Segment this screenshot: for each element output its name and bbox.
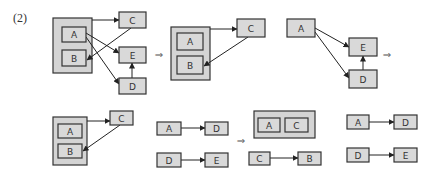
node-label: E — [130, 51, 136, 61]
node-c: C — [237, 19, 265, 37]
node-label: D — [129, 82, 136, 92]
node-label: A — [266, 121, 273, 131]
diagram-d5: ADDE — [157, 122, 228, 167]
diagram-d3: AED — [287, 19, 377, 88]
node-b: B — [62, 50, 86, 66]
node-b: B — [58, 144, 82, 158]
node-label: B — [67, 147, 73, 157]
node-label: D — [360, 75, 367, 85]
node-a: A — [347, 115, 369, 129]
diagram-d4: ABC — [53, 111, 133, 165]
node-label: A — [355, 118, 362, 128]
node-a: A — [258, 118, 280, 132]
node-a: A — [287, 19, 315, 37]
node-a: A — [177, 33, 203, 50]
node-b: B — [298, 152, 321, 165]
edge-c-to-b — [83, 125, 120, 151]
node-label: C — [129, 16, 135, 26]
node-label: A — [71, 30, 78, 40]
node-label: C — [118, 114, 124, 124]
diagram-d6: ACCB — [249, 111, 321, 165]
node-label: A — [67, 127, 74, 137]
node-label: A — [298, 24, 305, 34]
node-e: E — [119, 47, 146, 63]
node-d: D — [347, 148, 369, 162]
node-a: A — [62, 27, 86, 42]
diagram-canvas: (2) ABCEDABCAEDABCADDEACCBADDE ⇒⇒⇒ — [0, 0, 430, 177]
node-label: D — [355, 151, 362, 161]
implies-arrow-icon: ⇒ — [383, 49, 391, 60]
node-e: E — [349, 38, 377, 56]
node-c: C — [110, 111, 133, 125]
node-c: C — [119, 12, 146, 28]
node-d: D — [394, 115, 417, 129]
node-d: D — [205, 122, 228, 135]
node-label: B — [71, 54, 77, 64]
node-d: D — [349, 70, 377, 88]
node-label: C — [293, 121, 299, 131]
diagram-d7: ADDE — [347, 115, 417, 162]
node-label: E — [214, 156, 220, 166]
node-label: B — [306, 154, 312, 164]
node-c: C — [249, 152, 270, 165]
edge-a-to-e — [315, 28, 349, 47]
node-label: C — [248, 24, 254, 34]
node-label: D — [166, 156, 173, 166]
node-label: E — [360, 43, 366, 53]
implies-arrow-icon: ⇒ — [237, 135, 245, 146]
node-a: A — [157, 122, 181, 135]
edge-a-to-d — [315, 32, 349, 78]
node-label: B — [187, 61, 193, 71]
node-e: E — [394, 148, 417, 162]
node-a: A — [58, 124, 82, 138]
node-label: D — [402, 118, 409, 128]
diagram-groups: ABCEDABCAEDABCADDEACCBADDE — [53, 12, 417, 167]
node-e: E — [205, 153, 228, 167]
edge-c-to-b — [204, 37, 248, 66]
diagram-d1: ABCED — [53, 12, 146, 94]
node-b: B — [177, 56, 203, 74]
node-label: D — [213, 124, 220, 134]
node-c: C — [285, 118, 308, 132]
node-d: D — [157, 153, 181, 167]
implies-arrow-icon: ⇒ — [155, 49, 163, 60]
diagram-d2: ABC — [171, 19, 265, 80]
node-d: D — [119, 78, 146, 94]
node-label: E — [403, 151, 409, 161]
node-label: A — [166, 124, 173, 134]
figure-label: (2) — [13, 11, 27, 25]
node-label: C — [256, 154, 262, 164]
node-label: A — [187, 37, 194, 47]
